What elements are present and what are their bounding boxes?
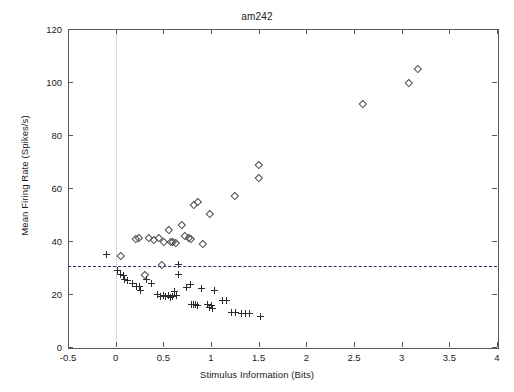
data-point-diamond [165,226,172,233]
data-point-plus [175,271,182,278]
data-point-plus [137,287,144,294]
data-point-plus [238,310,245,317]
data-point-plus [232,309,239,316]
data-point-diamond [231,192,238,199]
x-tick-label: 3 [399,352,404,363]
y-tick-mark [68,82,73,83]
data-point-plus [169,293,176,300]
x-tick-label: 0 [113,352,118,363]
x-tick-label: 3.5 [443,352,456,363]
x-tick-mark [449,29,450,34]
data-point-plus [183,284,190,291]
data-point-plus [148,280,155,287]
x-tick-mark [211,29,212,34]
data-point-plus [133,283,140,290]
data-point-diamond [132,235,139,242]
data-point-plus [206,304,213,311]
x-tick-label: 1 [208,352,213,363]
y-tick-label: 120 [26,24,62,35]
x-tick-mark [306,29,307,34]
x-tick-mark [163,342,164,347]
data-point-plus [154,291,161,298]
data-point-plus [242,310,249,317]
y-tick-mark [68,241,73,242]
y-tick-mark [68,294,73,295]
data-point-plus [157,293,164,300]
data-point-plus [228,309,235,316]
data-point-diamond [172,239,179,246]
x-tick-mark [449,342,450,347]
data-point-plus [129,280,136,287]
data-point-plus [121,276,128,283]
data-point-plus [162,293,169,300]
x-tick-label: 4 [494,352,499,363]
data-point-diamond [187,235,194,242]
data-point-plus [124,277,131,284]
data-point-diamond [190,201,197,208]
data-point-plus [209,305,216,312]
data-point-diamond [141,271,148,278]
data-point-plus [136,283,143,290]
y-tick-mark [68,188,73,189]
data-point-diamond [405,79,412,86]
data-point-diamond [169,238,176,245]
data-point-diamond [178,221,185,228]
data-point-plus [192,301,199,308]
page-title: am242 [0,11,514,22]
y-tick-label: 0 [26,342,62,353]
x-tick-label: 1.5 [252,352,265,363]
y-tick-mark [492,241,497,242]
data-point-plus [187,281,194,288]
y-tick-mark [492,294,497,295]
data-point-diamond [359,100,366,107]
data-point-plus [257,313,264,320]
data-point-diamond [145,234,152,241]
data-point-plus [219,297,226,304]
data-point-plus [246,310,253,317]
y-tick-mark [492,347,497,348]
y-tick-mark [492,135,497,136]
data-point-diamond [155,234,162,241]
y-tick-label: 20 [26,289,62,300]
data-point-plus [188,301,195,308]
data-point-diamond [160,238,167,245]
data-point-plus [190,301,197,308]
data-point-plus [143,276,150,283]
x-tick-label: 0.5 [157,352,170,363]
data-point-plus [194,302,201,309]
scatter-plot-figure: am242 -0.500.511.522.533.540204060801001… [0,0,514,392]
x-tick-mark [306,342,307,347]
x-tick-mark [116,29,117,34]
x-axis-label: Stimulus Information (Bits) [0,369,514,380]
data-point-plus [165,292,172,299]
y-tick-mark [68,347,73,348]
x-tick-mark [402,29,403,34]
data-point-diamond [150,236,157,243]
data-point-plus [120,272,127,279]
data-point-diamond [158,261,165,268]
data-point-plus [167,294,174,301]
data-point-plus [204,301,211,308]
x-tick-mark [354,29,355,34]
y-tick-label: 100 [26,77,62,88]
data-point-diamond [414,65,421,72]
data-point-diamond [117,252,124,259]
data-point-diamond [206,210,213,217]
data-point-plus [103,251,110,258]
data-point-diamond [255,161,262,168]
x-tick-mark [402,342,403,347]
data-point-plus [223,297,230,304]
y-tick-mark [492,82,497,83]
data-point-plus [211,287,218,294]
x-tick-mark [163,29,164,34]
y-tick-label: 60 [26,183,62,194]
x-tick-mark [497,342,498,347]
y-tick-mark [492,29,497,30]
data-point-diamond [194,198,201,205]
data-point-diamond [167,238,174,245]
data-point-plus [171,288,178,295]
baseline-rate-line [68,266,497,267]
zero-bits-line [116,29,117,347]
data-point-plus [198,285,205,292]
y-tick-label: 40 [26,236,62,247]
